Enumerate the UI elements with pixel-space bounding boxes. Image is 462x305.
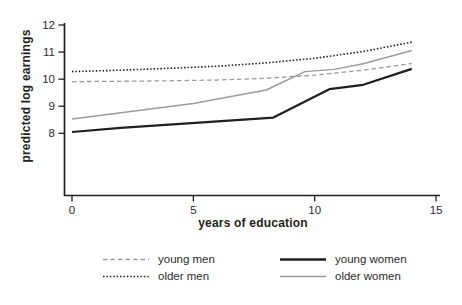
y-tick-label-10: 10 [42, 73, 55, 85]
legend-label-older-men: older men [158, 269, 209, 283]
y-tick-label-11: 11 [43, 46, 55, 58]
x-axis-title: years of education [198, 216, 308, 230]
x-tick-label-15: 15 [430, 204, 443, 216]
legend-sample-older-women-icon [280, 272, 326, 281]
figure: 89101112051015 predicted log earnings ye… [0, 0, 462, 305]
legend-item-young-women: young women [280, 252, 407, 266]
x-tick-label-0: 0 [69, 204, 75, 216]
legend-sample-young-men-icon [103, 255, 149, 264]
y-tick-label-12: 12 [42, 19, 55, 31]
legend-label-young-women: young women [335, 252, 407, 266]
y-tick-label-9: 9 [49, 100, 55, 112]
legend-item-young-men: young men [103, 252, 215, 266]
series-young-men [72, 64, 412, 82]
y-tick-label-8: 8 [49, 127, 55, 139]
x-tick-label-5: 5 [190, 204, 196, 216]
legend-label-older-women: older women [335, 269, 401, 283]
legend-item-older-men: older men [103, 269, 209, 283]
series-older-men [72, 42, 412, 72]
y-axis-title: predicted log earnings [19, 29, 33, 162]
legend-sample-older-men-icon [103, 272, 149, 281]
x-tick-label-10: 10 [308, 204, 321, 216]
legend-sample-young-women-icon [280, 255, 326, 264]
plot-area: 89101112051015 [42, 19, 442, 216]
series-young-women [72, 69, 412, 132]
legend-item-older-women: older women [280, 269, 401, 283]
legend-label-young-men: young men [158, 252, 215, 266]
